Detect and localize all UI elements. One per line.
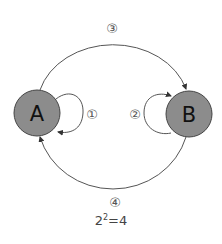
edge-3-arc: [40, 45, 186, 90]
node-b-label: B: [182, 103, 196, 127]
edge-1-label: ①: [86, 107, 98, 122]
edge-4-arc: [40, 137, 186, 189]
equation-base: 2: [95, 213, 103, 228]
edge-3-label: ③: [106, 21, 118, 36]
equation-result: =4: [108, 213, 127, 228]
equation-text: 22=4: [0, 213, 222, 228]
state-diagram: A B ③ ① ② ④: [0, 0, 222, 244]
edge-2-label: ②: [129, 107, 141, 122]
node-a-label: A: [30, 102, 45, 126]
edge-4-label: ④: [109, 195, 121, 210]
